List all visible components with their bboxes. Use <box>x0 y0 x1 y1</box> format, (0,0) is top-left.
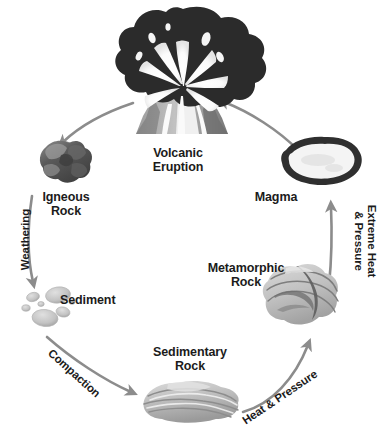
label-volcanic-eruption: Volcanic Eruption <box>118 146 238 174</box>
magma-chamber-icon <box>281 137 362 185</box>
sedimentary-rock-icon <box>144 381 239 423</box>
igneous-rock-icon <box>40 141 92 183</box>
label-sediment: Sediment <box>60 293 150 307</box>
arrow-volcano-to-igneous <box>63 103 133 142</box>
arrow-extreme-heat <box>329 207 332 285</box>
rock-cycle-diagram: Volcanic Eruption Igneous Rock Sediment … <box>0 0 377 434</box>
label-magma: Magma <box>236 190 316 204</box>
label-extreme-heat-and-pressure: Extreme Heat & Pressure <box>352 198 377 284</box>
label-sedimentary-rock: Sedimentary Rock <box>130 345 250 373</box>
label-weathering: Weathering <box>19 202 32 278</box>
label-metamorphic-rock: Metamorphic Rock <box>193 261 299 289</box>
arrow-magma-to-volcano <box>224 102 298 150</box>
volcano-icon <box>115 7 266 134</box>
label-igneous-rock: Igneous Rock <box>20 190 112 218</box>
